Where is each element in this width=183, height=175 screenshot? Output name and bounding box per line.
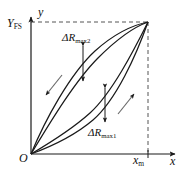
ascending-direction-arrow <box>118 94 134 114</box>
delta-r-max1-label: ΔRmax1 <box>88 127 116 139</box>
delta-r-max2-subscript: max2 <box>75 37 90 44</box>
y-full-scale-symbol: Y <box>7 16 14 30</box>
hysteresis-figure: y YFS x xm O ΔRmax2 ΔRmax1 <box>0 0 183 175</box>
descending-direction-arrow <box>46 75 62 95</box>
delta-r-max1-subscript: max1 <box>101 132 116 139</box>
y-axis-label: y <box>38 6 43 18</box>
x-axis-label: x <box>170 155 175 167</box>
x-max-subscript: m <box>138 159 144 168</box>
origin-label: O <box>19 152 28 164</box>
y-full-scale-label: YFS <box>7 17 22 30</box>
delta-r-max1-symbol: ΔR <box>88 126 101 138</box>
y-full-scale-subscript: FS <box>14 22 22 31</box>
figure-canvas <box>0 0 183 175</box>
delta-r-max2-symbol: ΔR <box>62 31 75 43</box>
x-max-label: xm <box>133 154 144 167</box>
delta-r-max2-label: ΔRmax2 <box>62 32 90 44</box>
